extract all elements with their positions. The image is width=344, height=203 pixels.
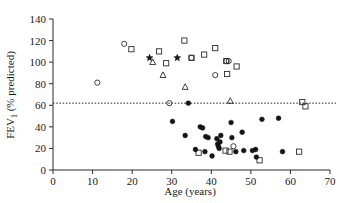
- marker-open-square: [156, 49, 161, 54]
- marker-open-square: [297, 149, 302, 154]
- data-markers: [95, 38, 308, 163]
- marker-open-square: [225, 71, 230, 76]
- marker-filled-circle: [280, 149, 285, 154]
- marker-filled-star: [174, 54, 181, 61]
- plot-canvas: 020406080100120140 010203040506070 Age (…: [0, 0, 344, 203]
- y-axis-title-main: FEV: [4, 118, 16, 139]
- svg-text:FEV1 (% predicted): FEV1 (% predicted): [4, 51, 19, 139]
- x-tick-label: 70: [325, 175, 337, 187]
- y-axis: 020406080100120140: [30, 13, 54, 176]
- marker-filled-circle: [203, 149, 208, 154]
- marker-filled-circle: [253, 147, 258, 152]
- y-tick-label: 20: [35, 142, 47, 154]
- marker-open-square: [129, 47, 134, 52]
- marker-open-circle: [189, 55, 194, 60]
- marker-filled-circle: [206, 135, 211, 140]
- marker-filled-circle: [170, 119, 175, 124]
- y-tick-label: 120: [30, 35, 47, 47]
- marker-filled-circle: [200, 126, 205, 131]
- x-tick-label: 10: [87, 175, 99, 187]
- marker-open-square: [202, 52, 207, 57]
- marker-open-circle: [213, 72, 218, 77]
- scatter-plot-figure: 020406080100120140 010203040506070 Age (…: [0, 0, 344, 203]
- marker-open-circle: [231, 144, 236, 149]
- marker-filled-circle: [183, 133, 188, 138]
- marker-open-square: [234, 64, 239, 69]
- marker-filled-circle: [229, 120, 234, 125]
- marker-open-circle: [95, 80, 100, 85]
- x-tick-label: 60: [285, 175, 297, 187]
- marker-filled-circle: [210, 154, 215, 159]
- marker-filled-circle: [186, 101, 191, 106]
- marker-open-triangle: [227, 98, 233, 104]
- marker-filled-circle: [218, 140, 223, 145]
- marker-filled-circle: [260, 117, 265, 122]
- y-axis-title: FEV1 (% predicted): [4, 51, 19, 139]
- series-filled-circle: [170, 101, 285, 160]
- marker-filled-circle: [240, 130, 245, 135]
- marker-filled-circle: [193, 147, 198, 152]
- marker-filled-circle: [254, 155, 259, 160]
- marker-open-square: [164, 61, 169, 66]
- x-tick-label: 20: [127, 175, 139, 187]
- x-tick-label: 0: [50, 175, 56, 187]
- marker-open-square: [182, 38, 187, 43]
- series-filled-star: [146, 54, 181, 61]
- x-axis-title: Age (years): [164, 185, 216, 198]
- y-tick-label: 140: [30, 13, 47, 25]
- y-tick-label: 80: [35, 78, 47, 90]
- marker-filled-circle: [233, 149, 238, 154]
- marker-open-circle: [122, 41, 127, 46]
- x-tick-label: 50: [245, 175, 257, 187]
- y-tick-label: 40: [35, 121, 47, 133]
- y-axis-title-rest: (% predicted): [4, 51, 17, 114]
- series-open-circle: [95, 41, 236, 149]
- marker-filled-circle: [218, 133, 223, 138]
- series-open-triangle: [150, 59, 233, 103]
- marker-filled-circle: [241, 148, 246, 153]
- y-tick-label: 60: [35, 99, 47, 111]
- marker-open-triangle: [160, 72, 166, 78]
- marker-filled-circle: [276, 116, 281, 121]
- y-tick-label: 100: [30, 56, 47, 68]
- marker-filled-circle: [229, 135, 234, 140]
- marker-open-triangle: [182, 84, 188, 90]
- y-tick-label: 0: [41, 164, 47, 176]
- marker-filled-circle: [217, 146, 222, 151]
- marker-open-square: [213, 46, 218, 51]
